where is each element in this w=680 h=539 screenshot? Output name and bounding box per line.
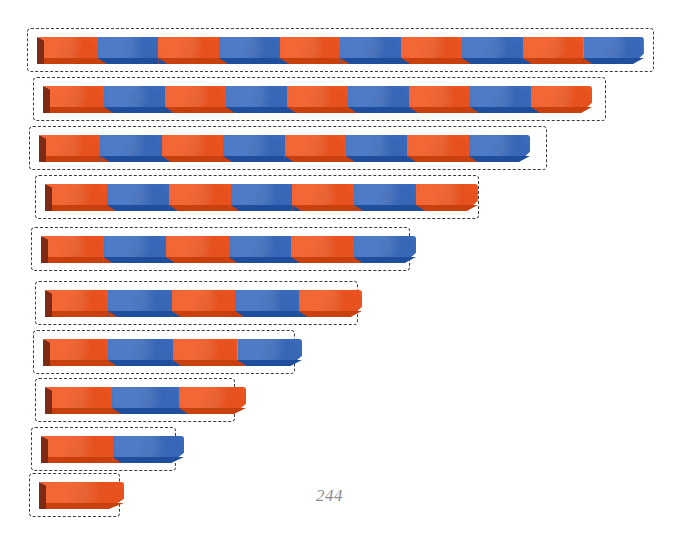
segment-bevel (41, 457, 113, 463)
segment-bevel (354, 257, 417, 263)
rod-segment-orange (37, 37, 98, 64)
rod-segment-orange (165, 86, 226, 113)
rod-segment-orange (407, 135, 468, 162)
bar-row (35, 175, 479, 219)
rod-segment-orange (523, 37, 584, 64)
segment-bevel (409, 107, 470, 113)
segment-bevel (39, 156, 100, 162)
rod-segment-orange (291, 236, 354, 263)
rod-left-endcap (39, 482, 46, 509)
rod-left-endcap (45, 290, 52, 317)
bar-5[interactable] (45, 290, 362, 317)
bar-10[interactable] (37, 37, 644, 64)
rod-left-endcap (41, 236, 48, 263)
rod-segment-orange (45, 184, 107, 211)
segment-bevel (104, 257, 167, 263)
segment-bevel (112, 408, 179, 414)
segment-bevel (166, 257, 229, 263)
rod-segment-orange (292, 184, 354, 211)
segment-bevel (523, 58, 584, 64)
bar-9[interactable] (43, 86, 592, 113)
bar-row (29, 473, 120, 517)
rod-segment-orange (41, 436, 113, 463)
rod-segment-blue (583, 37, 644, 64)
bar-2[interactable] (41, 436, 184, 463)
rod-segment-blue (100, 135, 161, 162)
rod-left-endcap (43, 86, 50, 113)
segment-bevel (469, 156, 530, 162)
segment-bevel (108, 360, 173, 366)
segment-bevel (219, 58, 280, 64)
segment-bevel (348, 107, 409, 113)
rod-segment-blue (108, 339, 173, 366)
segment-bevel (223, 156, 284, 162)
segment-bevel (100, 156, 161, 162)
segment-bevel (169, 205, 231, 211)
segment-bevel (108, 311, 171, 317)
segment-bevel (285, 156, 346, 162)
rod-segment-blue (104, 236, 167, 263)
rod-segment-blue (219, 37, 280, 64)
segment-bevel (158, 58, 219, 64)
segment-bevel (462, 58, 523, 64)
rod-segment-blue (98, 37, 159, 64)
bar-3[interactable] (45, 387, 246, 414)
rod-segment-orange (162, 135, 223, 162)
rod-segment-orange (166, 236, 229, 263)
bar-row (31, 227, 410, 271)
rod-left-endcap (39, 135, 46, 162)
segment-bevel (235, 311, 298, 317)
rod-segment-blue (113, 436, 185, 463)
rod-segment-blue (462, 37, 523, 64)
bar-6[interactable] (41, 236, 416, 263)
segment-bevel (45, 408, 112, 414)
bar-row (35, 378, 235, 422)
bar-row (33, 330, 295, 374)
rod-segment-blue (112, 387, 179, 414)
rod-segment-blue (229, 236, 292, 263)
segment-bevel (287, 107, 348, 113)
segment-bevel (162, 156, 223, 162)
bar-8[interactable] (39, 135, 530, 162)
rod-segment-orange (43, 86, 104, 113)
bar-7[interactable] (45, 184, 478, 211)
rod-segment-blue (469, 135, 530, 162)
segment-bevel (165, 107, 226, 113)
segment-bevel (237, 360, 302, 366)
segment-bevel (416, 205, 478, 211)
segment-bevel (39, 503, 124, 509)
segment-bevel (98, 58, 159, 64)
rod-segment-orange (39, 482, 124, 509)
segment-bevel (231, 205, 293, 211)
rod-segment-orange (172, 290, 235, 317)
page-number: 244 (316, 486, 343, 506)
rod-segment-orange (531, 86, 592, 113)
rod-segment-blue (354, 236, 417, 263)
bar-1[interactable] (39, 482, 124, 509)
bar-4[interactable] (43, 339, 302, 366)
segment-bevel (401, 58, 462, 64)
rod-segment-blue (354, 184, 416, 211)
rod-segment-orange (416, 184, 478, 211)
rod-segment-orange (173, 339, 238, 366)
segment-bevel (229, 257, 292, 263)
rod-segment-orange (39, 135, 100, 162)
rod-segment-orange (280, 37, 341, 64)
segment-bevel (104, 107, 165, 113)
segment-bevel (340, 58, 401, 64)
rod-segment-orange (401, 37, 462, 64)
rod-left-endcap (45, 387, 52, 414)
bar-row (33, 77, 606, 121)
segment-bevel (179, 408, 246, 414)
rod-segment-blue (108, 290, 171, 317)
rod-segment-orange (43, 339, 108, 366)
segment-bevel (226, 107, 287, 113)
segment-bevel (45, 205, 107, 211)
rod-segment-blue (223, 135, 284, 162)
segment-bevel (583, 58, 644, 64)
rod-segment-orange (409, 86, 470, 113)
rod-segment-orange (158, 37, 219, 64)
segment-bevel (172, 311, 235, 317)
rod-segment-orange (45, 387, 112, 414)
segment-bevel (292, 205, 354, 211)
